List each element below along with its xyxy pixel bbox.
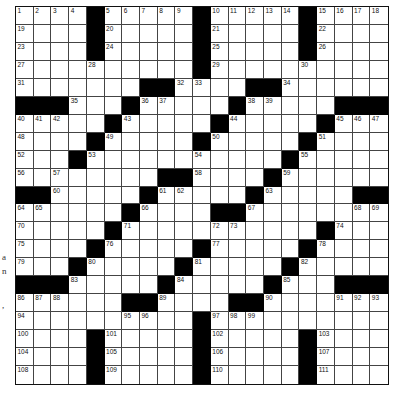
grid-cell[interactable] <box>105 312 123 330</box>
grid-cell[interactable] <box>34 240 52 258</box>
grid-cell[interactable] <box>370 312 388 330</box>
grid-cell[interactable] <box>175 151 193 169</box>
grid-cell[interactable]: 9 <box>175 7 193 25</box>
grid-cell[interactable] <box>193 97 211 115</box>
grid-cell[interactable]: 18 <box>370 7 388 25</box>
grid-cell[interactable] <box>299 204 317 222</box>
grid-cell[interactable] <box>229 169 247 187</box>
grid-cell[interactable]: 96 <box>140 312 158 330</box>
grid-cell[interactable] <box>69 366 87 384</box>
grid-cell[interactable]: 56 <box>16 169 34 187</box>
grid-cell[interactable]: 15 <box>317 7 335 25</box>
grid-cell[interactable] <box>175 348 193 366</box>
grid-cell[interactable]: 54 <box>193 151 211 169</box>
grid-cell[interactable] <box>317 204 335 222</box>
grid-cell[interactable] <box>122 79 140 97</box>
grid-cell[interactable] <box>140 222 158 240</box>
grid-cell[interactable] <box>158 204 176 222</box>
grid-cell[interactable]: 37 <box>158 97 176 115</box>
grid-cell[interactable] <box>34 133 52 151</box>
grid-cell[interactable] <box>175 133 193 151</box>
grid-cell[interactable] <box>140 61 158 79</box>
grid-cell[interactable] <box>246 43 264 61</box>
grid-cell[interactable] <box>335 25 353 43</box>
grid-cell[interactable]: 43 <box>122 115 140 133</box>
grid-cell[interactable] <box>140 366 158 384</box>
grid-cell[interactable]: 65 <box>34 204 52 222</box>
grid-cell[interactable] <box>353 61 371 79</box>
grid-cell[interactable] <box>353 348 371 366</box>
grid-cell[interactable]: 57 <box>51 169 69 187</box>
grid-cell[interactable] <box>158 61 176 79</box>
grid-cell[interactable] <box>69 169 87 187</box>
grid-cell[interactable] <box>122 330 140 348</box>
grid-cell[interactable] <box>175 115 193 133</box>
grid-cell[interactable]: 62 <box>175 187 193 205</box>
grid-cell[interactable] <box>370 169 388 187</box>
grid-cell[interactable] <box>317 151 335 169</box>
grid-cell[interactable]: 86 <box>16 294 34 312</box>
grid-cell[interactable]: 92 <box>353 294 371 312</box>
grid-cell[interactable]: 103 <box>317 330 335 348</box>
grid-cell[interactable] <box>282 187 300 205</box>
grid-cell[interactable] <box>34 330 52 348</box>
grid-cell[interactable] <box>158 133 176 151</box>
grid-cell[interactable]: 105 <box>105 348 123 366</box>
grid-cell[interactable]: 84 <box>175 276 193 294</box>
grid-cell[interactable] <box>51 240 69 258</box>
grid-cell[interactable] <box>299 187 317 205</box>
grid-cell[interactable] <box>69 348 87 366</box>
grid-cell[interactable] <box>158 222 176 240</box>
grid-cell[interactable]: 72 <box>211 222 229 240</box>
grid-cell[interactable] <box>264 366 282 384</box>
grid-cell[interactable] <box>299 276 317 294</box>
grid-cell[interactable]: 110 <box>211 366 229 384</box>
grid-cell[interactable] <box>335 61 353 79</box>
grid-cell[interactable]: 70 <box>16 222 34 240</box>
grid-cell[interactable] <box>69 61 87 79</box>
grid-cell[interactable] <box>51 204 69 222</box>
grid-cell[interactable] <box>229 276 247 294</box>
grid-cell[interactable]: 109 <box>105 366 123 384</box>
grid-cell[interactable]: 55 <box>299 151 317 169</box>
grid-cell[interactable] <box>246 169 264 187</box>
grid-cell[interactable] <box>158 115 176 133</box>
grid-cell[interactable] <box>211 151 229 169</box>
grid-cell[interactable]: 71 <box>122 222 140 240</box>
grid-cell[interactable]: 32 <box>175 79 193 97</box>
grid-cell[interactable] <box>246 133 264 151</box>
grid-cell[interactable] <box>51 61 69 79</box>
grid-cell[interactable] <box>370 133 388 151</box>
grid-cell[interactable] <box>140 258 158 276</box>
grid-cell[interactable] <box>158 312 176 330</box>
grid-cell[interactable] <box>229 366 247 384</box>
grid-cell[interactable] <box>140 25 158 43</box>
grid-cell[interactable] <box>69 204 87 222</box>
grid-cell[interactable]: 31 <box>16 79 34 97</box>
grid-cell[interactable]: 80 <box>87 258 105 276</box>
grid-cell[interactable]: 22 <box>317 25 335 43</box>
grid-cell[interactable] <box>211 276 229 294</box>
grid-cell[interactable]: 101 <box>105 330 123 348</box>
grid-cell[interactable] <box>69 115 87 133</box>
grid-cell[interactable] <box>158 43 176 61</box>
grid-cell[interactable]: 66 <box>140 204 158 222</box>
grid-cell[interactable]: 4 <box>69 7 87 25</box>
grid-cell[interactable]: 3 <box>51 7 69 25</box>
grid-cell[interactable]: 82 <box>299 258 317 276</box>
grid-cell[interactable] <box>34 79 52 97</box>
grid-cell[interactable] <box>335 187 353 205</box>
grid-cell[interactable] <box>370 61 388 79</box>
grid-cell[interactable]: 67 <box>246 204 264 222</box>
grid-cell[interactable] <box>335 43 353 61</box>
grid-cell[interactable] <box>211 169 229 187</box>
grid-cell[interactable]: 46 <box>353 115 371 133</box>
grid-cell[interactable] <box>246 366 264 384</box>
grid-cell[interactable] <box>175 240 193 258</box>
grid-cell[interactable] <box>105 151 123 169</box>
grid-cell[interactable] <box>299 97 317 115</box>
grid-cell[interactable]: 12 <box>246 7 264 25</box>
grid-cell[interactable] <box>335 312 353 330</box>
grid-cell[interactable] <box>282 97 300 115</box>
grid-cell[interactable] <box>246 61 264 79</box>
